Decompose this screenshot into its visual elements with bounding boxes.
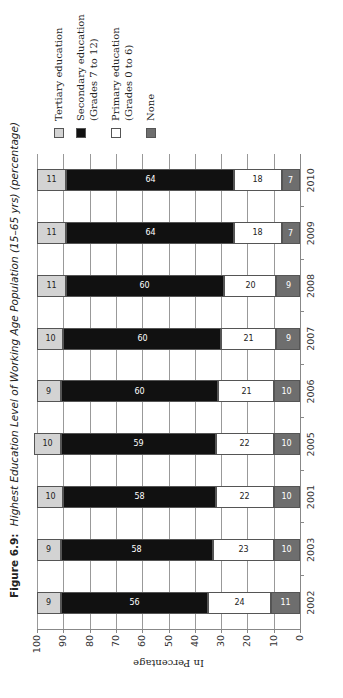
bar-segment: 20 <box>224 275 277 297</box>
bar-segment: 11 <box>37 275 66 297</box>
y-tick-mark <box>195 629 196 633</box>
bar-segment: 9 <box>37 381 61 403</box>
bar-2007: 9216010 <box>37 328 300 350</box>
data-label: 9 <box>46 387 51 396</box>
bar-segment: 58 <box>61 539 214 561</box>
data-label: 10 <box>45 334 55 343</box>
legend-label-line: Tertiary education <box>52 28 65 121</box>
bar-segment: 60 <box>61 381 219 403</box>
legend-label: Tertiary education <box>52 28 65 121</box>
data-label: 59 <box>133 440 143 449</box>
x-tick-mark <box>300 364 304 365</box>
x-tick-label: 2005 <box>305 424 316 464</box>
data-label: 10 <box>45 493 55 502</box>
data-label: 58 <box>134 493 144 502</box>
bar-segment: 22 <box>216 433 274 455</box>
y-tick-label: 80 <box>84 635 95 659</box>
data-label: 20 <box>245 281 255 290</box>
figure-number: Figure 6.9: <box>8 533 20 598</box>
legend-swatch <box>76 128 86 138</box>
rotated-figure-page: Figure 6.9: Highest Education Level of W… <box>0 0 343 698</box>
y-tick-label: 0 <box>294 635 305 659</box>
x-tick-mark <box>300 575 304 576</box>
data-label: 56 <box>129 598 139 607</box>
data-label: 10 <box>282 545 292 554</box>
x-tick-mark <box>300 417 304 418</box>
bar-2005: 10225910 <box>37 433 300 455</box>
legend-swatch <box>146 128 156 138</box>
data-label: 9 <box>46 598 51 607</box>
bar-segment: 11 <box>37 222 66 244</box>
bar-segment: 9 <box>276 275 300 297</box>
data-label: 24 <box>234 598 244 607</box>
legend-item: Tertiary education <box>52 0 65 138</box>
x-tick-mark <box>300 470 304 471</box>
legend-label: None <box>144 94 157 121</box>
legend-label: Secondary education(Grades 7 to 12) <box>74 14 100 121</box>
x-tick-label: 2009 <box>305 213 316 253</box>
legend-item: Primary education(Grades 0 to 6) <box>109 0 135 138</box>
plot-area: In Percentage 0102030405060708090100 112… <box>37 154 301 630</box>
bar-segment: 9 <box>37 592 61 614</box>
bar-segment: 10 <box>274 539 300 561</box>
x-tick-label: 2001 <box>305 477 316 517</box>
legend-label-line: Secondary education <box>74 14 87 121</box>
bar-segment: 58 <box>63 486 216 508</box>
y-tick-label: 100 <box>31 635 42 659</box>
bar-segment: 10 <box>34 433 60 455</box>
bar-2006: 1021609 <box>37 381 300 403</box>
bar-segment: 64 <box>66 169 234 191</box>
bar-segment: 22 <box>216 486 274 508</box>
figure-title-text: Highest Education Level of Working Age P… <box>8 122 20 526</box>
data-label: 9 <box>286 281 291 290</box>
y-tick-mark <box>274 629 275 633</box>
legend-label-line: (Grades 7 to 12) <box>87 14 100 121</box>
data-label: 10 <box>282 493 292 502</box>
data-label: 18 <box>253 176 263 185</box>
y-tick-label: 70 <box>110 635 121 659</box>
data-label: 58 <box>132 545 142 554</box>
legend-swatch <box>111 128 121 138</box>
data-label: 10 <box>282 387 292 396</box>
bar-segment: 7 <box>282 222 300 244</box>
bar-segment: 21 <box>221 328 276 350</box>
bar-segment: 24 <box>208 592 271 614</box>
data-label: 7 <box>288 176 293 185</box>
y-tick-label: 90 <box>57 635 68 659</box>
y-tick-mark <box>300 629 301 633</box>
legend-label-line: (Grades 0 to 6) <box>122 27 135 121</box>
y-tick-label: 10 <box>268 635 279 659</box>
bar-segment: 64 <box>66 222 234 244</box>
x-tick-label: 2010 <box>305 160 316 200</box>
data-label: 10 <box>42 440 52 449</box>
data-label: 10 <box>282 440 292 449</box>
legend-swatch <box>54 128 64 138</box>
bar-segment: 59 <box>61 433 216 455</box>
data-label: 64 <box>145 176 155 185</box>
data-label: 7 <box>288 229 293 238</box>
data-label: 9 <box>286 334 291 343</box>
bar-segment: 10 <box>274 381 300 403</box>
x-tick-mark <box>300 259 304 260</box>
x-tick-label: 2003 <box>305 530 316 570</box>
bar-segment: 10 <box>274 433 300 455</box>
data-label: 11 <box>46 176 56 185</box>
data-label: 11 <box>46 229 56 238</box>
bar-segment: 11 <box>271 592 300 614</box>
y-axis-label: In Percentage <box>37 657 300 671</box>
x-tick-label: 2006 <box>305 372 316 412</box>
y-tick-label: 30 <box>215 635 226 659</box>
bar-2008: 9206011 <box>37 275 300 297</box>
bar-2010: 7186411 <box>37 169 300 191</box>
y-tick-label: 60 <box>136 635 147 659</box>
y-tick-mark <box>90 629 91 633</box>
bar-2001: 10225810 <box>37 486 300 508</box>
bar-segment: 23 <box>213 539 273 561</box>
legend-label-line: Primary education <box>109 27 122 121</box>
y-tick-mark <box>116 629 117 633</box>
data-label: 23 <box>238 545 248 554</box>
y-tick-mark <box>247 629 248 633</box>
bar-segment: 10 <box>274 486 300 508</box>
data-label: 11 <box>280 598 290 607</box>
data-label: 21 <box>244 334 254 343</box>
